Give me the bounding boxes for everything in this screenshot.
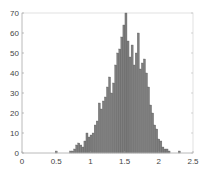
histogram-bar: [139, 69, 141, 153]
y-tick-label: 30: [10, 89, 19, 98]
y-tick-label: 50: [10, 49, 19, 58]
histogram-bar: [121, 37, 123, 153]
histogram-bar: [78, 143, 80, 153]
histogram-bar: [113, 83, 115, 153]
histogram-bar: [143, 59, 145, 153]
histogram-bar: [90, 135, 92, 153]
histogram-bar: [154, 125, 156, 153]
histogram-bar: [148, 87, 150, 153]
histogram-bar: [74, 149, 76, 153]
histogram-bar: [106, 87, 108, 153]
histogram-bar: [88, 137, 90, 153]
histogram-bar: [98, 103, 100, 153]
histogram-bar: [156, 129, 158, 153]
histogram-bar: [109, 77, 111, 153]
histogram-bar: [129, 57, 131, 153]
histogram-bar: [145, 73, 147, 153]
histogram-bar: [166, 149, 168, 153]
histogram-bar: [111, 93, 113, 153]
histogram-bar: [137, 33, 139, 153]
histogram-bar: [133, 65, 135, 153]
y-tick-label: 60: [10, 29, 19, 38]
histogram-bar: [104, 97, 106, 153]
histogram-bar: [100, 109, 102, 153]
histogram-bar: [152, 113, 154, 153]
histogram-bar: [123, 25, 125, 153]
y-tick-label: 20: [10, 109, 19, 118]
histogram-bar: [162, 147, 164, 153]
y-tick-label: 70: [10, 9, 19, 18]
histogram-bar: [125, 13, 127, 153]
y-tick-label: 0: [15, 149, 20, 158]
histogram-bar: [115, 65, 117, 153]
x-tick-label: 1: [88, 157, 93, 166]
histogram-bar: [164, 149, 166, 153]
x-tick-label: 2: [157, 157, 162, 166]
histogram-bar: [86, 133, 88, 153]
x-tick-label: 2.5: [187, 157, 199, 166]
x-axis: 00.511.522.5: [20, 151, 199, 166]
histogram-chart: 00.511.522.5 010203040506070: [0, 0, 208, 176]
histogram-bar: [102, 101, 104, 153]
histogram-bar: [119, 49, 121, 153]
histogram-bar: [160, 141, 162, 153]
y-tick-label: 10: [10, 129, 19, 138]
x-tick-label: 0.5: [51, 157, 63, 166]
histogram-bar: [82, 147, 84, 153]
histogram-bar: [131, 45, 133, 153]
histogram-bar: [96, 121, 98, 153]
histogram-bar: [127, 41, 129, 153]
histogram-bar: [135, 53, 137, 153]
y-tick-label: 40: [10, 69, 19, 78]
histogram-bar: [141, 63, 143, 153]
histogram-bar: [76, 145, 78, 153]
x-tick-label: 1.5: [119, 157, 131, 166]
histogram-bar: [117, 53, 119, 153]
histogram-bar: [80, 145, 82, 153]
histogram-bar: [150, 105, 152, 153]
histogram-bar: [158, 139, 160, 153]
histogram-bar: [94, 125, 96, 153]
x-tick-label: 0: [20, 157, 25, 166]
histogram-bar: [92, 133, 94, 153]
histogram-bar: [84, 141, 86, 153]
